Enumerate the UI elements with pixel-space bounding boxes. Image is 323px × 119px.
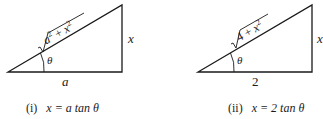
adjacent-label-i: a — [62, 74, 69, 90]
caption-i: (i) x = a tan θ — [26, 101, 99, 116]
angle-arc-i — [41, 53, 45, 72]
triangle-ii-shape — [198, 5, 312, 72]
opposite-label-ii: x — [317, 31, 323, 47]
caption-number-i: (i) — [26, 101, 37, 115]
angle-label-i: θ — [47, 54, 52, 66]
adjacent-label-ii: 2 — [252, 74, 259, 90]
caption-ii: (ii) x = 2 tan θ — [228, 101, 304, 116]
caption-equation-i: x = a tan θ — [46, 101, 99, 115]
triangle-ii — [198, 5, 312, 72]
opposite-label-i: x — [128, 31, 134, 47]
caption-equation-ii: x = 2 tan θ — [252, 101, 305, 115]
angle-arc-ii — [231, 53, 235, 72]
caption-number-ii: (ii) — [228, 101, 243, 115]
angle-label-ii: θ — [237, 54, 242, 66]
